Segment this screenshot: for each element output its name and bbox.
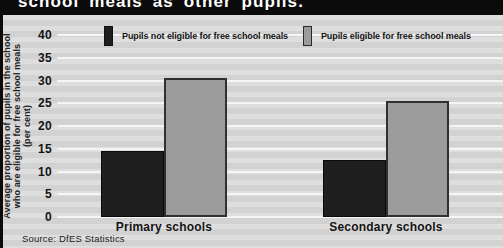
legend-label-eligible: Pupils eligible for free school meals — [321, 31, 471, 41]
plot-area: 0510152025303540Primary schoolsSecondary… — [57, 35, 503, 217]
gridline-35 — [57, 57, 503, 59]
legend-item-eligible: Pupils eligible for free school meals — [303, 26, 471, 46]
y-tick-label-0: 0 — [18, 210, 52, 224]
left-border-strip — [0, 0, 3, 248]
y-tick-label-25: 25 — [18, 96, 52, 110]
legend: Pupils not eligible for free school meal… — [104, 26, 471, 46]
chart-window: school meals as other pupils. Pupils not… — [0, 0, 503, 248]
chart-title: school meals as other pupils. — [18, 0, 304, 12]
y-tick-label-20: 20 — [18, 119, 52, 133]
legend-swatch-gray — [303, 26, 312, 46]
category-label-primary-schools: Primary schools — [84, 220, 244, 234]
category-label-secondary-schools: Secondary schools — [306, 220, 466, 234]
bar-secondary-schools-eligible — [386, 101, 449, 217]
legend-label-not-eligible: Pupils not eligible for free school meal… — [122, 31, 288, 41]
chart-title-band: school meals as other pupils. — [0, 0, 503, 15]
gridline-30 — [57, 80, 503, 82]
y-tick-label-40: 40 — [18, 28, 52, 42]
legend-swatch-dark — [104, 26, 113, 46]
bar-primary-schools-eligible — [164, 78, 227, 217]
bar-secondary-schools-not-eligible — [323, 160, 386, 217]
y-tick-label-30: 30 — [18, 74, 52, 88]
y-axis-title-line-1: Average proportion of pupils in the scho… — [2, 26, 12, 226]
y-tick-label-10: 10 — [18, 165, 52, 179]
legend-item-not-eligible: Pupils not eligible for free school meal… — [104, 26, 288, 46]
source-note: Source: DfES Statistics — [22, 233, 125, 244]
y-tick-label-15: 15 — [18, 142, 52, 156]
bar-primary-schools-not-eligible — [101, 151, 164, 217]
y-tick-label-35: 35 — [18, 51, 52, 65]
y-tick-label-5: 5 — [18, 187, 52, 201]
